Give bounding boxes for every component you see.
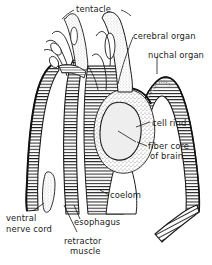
label-nuchal-organ: nuchal organ <box>148 50 204 60</box>
fiber-core-of-brain <box>100 102 141 160</box>
label-tentacle: tentacle <box>76 4 111 14</box>
label-ventral-line1: ventral <box>6 213 36 223</box>
label-cell-rind: cell rind <box>152 118 186 128</box>
anatomical-diagram: tentacle cerebral organ nuchal organ cel… <box>0 0 212 265</box>
label-retractor-line2: muscle <box>70 246 101 256</box>
label-retractor-line1: retractor <box>64 236 102 246</box>
label-fiber-core-line2: of brain <box>150 151 183 161</box>
label-cerebral-organ: cerebral organ <box>133 31 196 41</box>
label-esophagus: esophagus <box>74 217 120 227</box>
label-ventral-line2: nerve cord <box>6 224 52 234</box>
label-coelom: coelom <box>110 190 141 200</box>
ventral-nerve-cord <box>43 172 56 212</box>
label-fiber-core-line1: fiber core <box>148 141 189 151</box>
body-wall-right-lower <box>155 205 199 242</box>
retractor-muscle-left <box>64 60 83 214</box>
